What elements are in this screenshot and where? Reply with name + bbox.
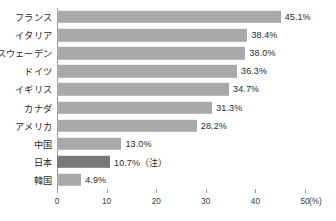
category-label: 日本 [34, 155, 52, 169]
category-label: フランス [15, 10, 52, 24]
value-label: 45.1% [285, 12, 311, 22]
x-axis-tick-label: 20 [152, 197, 161, 206]
x-axis-tick-label: 0 [55, 197, 60, 206]
bar [57, 65, 237, 77]
category-label: イタリア [15, 28, 52, 42]
category-label: 韓国 [34, 173, 52, 187]
bar [57, 156, 110, 168]
category-label: アメリカ [15, 119, 52, 133]
x-axis-tick [255, 189, 256, 193]
bar-chart: フランス45.1%イタリア38.4%スウェーデン38.0%ドイツ36.3%イギリ… [0, 0, 336, 221]
bar-row: 中国13.0% [57, 135, 305, 153]
x-axis-tick [206, 189, 207, 193]
x-axis-tick [305, 189, 306, 193]
category-label: カナダ [24, 101, 52, 115]
x-axis-tick [107, 189, 108, 193]
bar-row: 韓国4.9% [57, 171, 305, 189]
bar-row: イギリス34.7% [57, 80, 305, 98]
bar-row: フランス45.1% [57, 8, 305, 26]
category-label: ドイツ [24, 64, 52, 78]
x-axis-tick-label: 30 [201, 197, 210, 206]
bar [57, 119, 197, 131]
value-label: 31.3% [216, 103, 242, 113]
x-axis-tick-label: 10 [102, 197, 111, 206]
category-label: イギリス [15, 82, 52, 96]
bar-row: ドイツ36.3% [57, 62, 305, 80]
x-axis: 01020304050(%) [57, 193, 305, 194]
bar [57, 138, 121, 150]
value-label: 36.3% [241, 66, 267, 76]
bar-row: スウェーデン38.0% [57, 44, 305, 62]
bar-row: イタリア38.4% [57, 26, 305, 44]
x-axis-tick [156, 189, 157, 193]
bar [57, 101, 212, 113]
bar [57, 83, 229, 95]
bar [57, 11, 281, 23]
x-axis-unit-label: (%) [309, 197, 322, 206]
bar-row: 日本10.7%（注） [57, 153, 305, 171]
value-label: 38.0% [249, 48, 275, 58]
value-label: 10.7%（注） [114, 155, 167, 168]
bar [57, 174, 81, 186]
value-label: 13.0% [125, 139, 151, 149]
bar-row: アメリカ28.2% [57, 117, 305, 135]
plot-area: フランス45.1%イタリア38.4%スウェーデン38.0%ドイツ36.3%イギリ… [57, 8, 305, 189]
bar-row: カナダ31.3% [57, 99, 305, 117]
category-label: 中国 [34, 137, 52, 151]
value-label: 38.4% [251, 30, 277, 40]
x-axis-tick-label: 40 [251, 197, 260, 206]
value-label: 28.2% [201, 121, 227, 131]
value-label: 4.9% [85, 175, 106, 185]
value-label: 34.7% [233, 84, 259, 94]
bar [57, 29, 247, 41]
category-label: スウェーデン [0, 46, 52, 60]
bar [57, 47, 245, 59]
